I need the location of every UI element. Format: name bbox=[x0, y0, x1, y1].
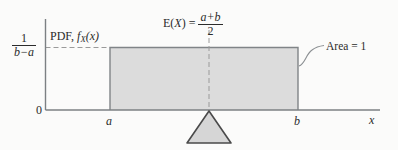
one-over-b-minus-a-fraction: 1 b−a bbox=[12, 32, 36, 59]
expectation-variable: X bbox=[174, 16, 181, 30]
area-label: Area = 1 bbox=[326, 41, 366, 53]
x-tick-label-a: a bbox=[106, 115, 112, 127]
mean-numerator: a+b bbox=[198, 11, 222, 25]
expectation-equals: ) = bbox=[182, 16, 199, 30]
pdf-function-argument: (x) bbox=[86, 29, 99, 43]
uniform-distribution-figure: 1 b−a PDF, fX(x) E(X) = a+b 2 Area = 1 0… bbox=[0, 0, 398, 150]
fraction-denominator: b−a bbox=[12, 46, 36, 59]
origin-label: 0 bbox=[36, 104, 42, 116]
pdf-text: PDF, bbox=[50, 29, 77, 43]
y-axis-value-label: 1 b−a bbox=[12, 32, 36, 59]
area-callout-leader bbox=[299, 46, 324, 67]
uniform-density-area bbox=[110, 48, 298, 111]
pdf-axis-label: PDF, fX(x) bbox=[50, 30, 99, 44]
expectation-lhs: E( bbox=[163, 16, 174, 30]
mean-denominator: 2 bbox=[198, 25, 222, 38]
fulcrum-triangle bbox=[187, 111, 231, 143]
expected-value-label: E(X) = a+b 2 bbox=[163, 11, 223, 38]
fraction-numerator: 1 bbox=[12, 32, 36, 46]
mean-fraction: a+b 2 bbox=[198, 11, 222, 38]
x-axis-label: x bbox=[369, 114, 374, 126]
x-tick-label-b: b bbox=[294, 115, 300, 127]
